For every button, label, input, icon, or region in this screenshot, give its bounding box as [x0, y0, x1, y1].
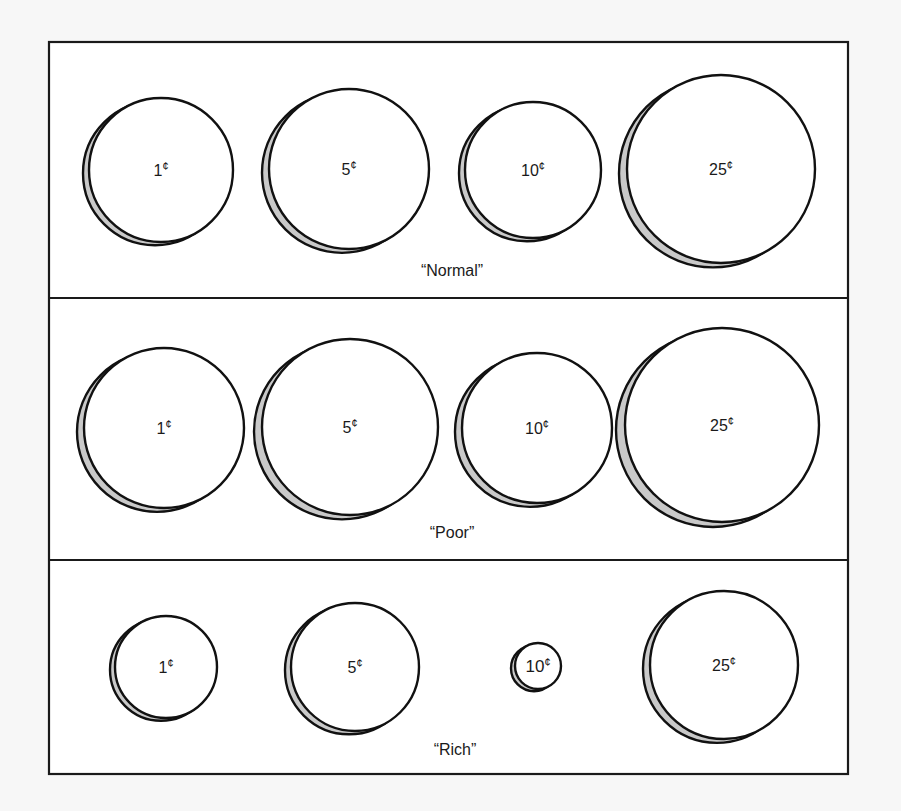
coin-10-cent: 10¢: [511, 643, 561, 691]
cent-sign-icon: ¢: [351, 417, 357, 429]
cent-sign-icon: ¢: [167, 657, 173, 669]
coin-10-cent: 10¢: [455, 353, 612, 507]
cent-sign-icon: ¢: [165, 418, 171, 430]
cent-sign-icon: ¢: [162, 160, 168, 172]
panel-label-normal: “Normal”: [421, 262, 483, 279]
cent-sign-icon: ¢: [544, 656, 550, 668]
cent-sign-icon: ¢: [356, 657, 362, 669]
cent-sign-icon: ¢: [350, 159, 356, 171]
cent-sign-icon: ¢: [539, 160, 545, 172]
cent-sign-icon: ¢: [728, 415, 734, 427]
coin-1-cent: 1¢: [77, 348, 244, 512]
diagram-canvas: 1¢ 5¢ 10¢ 25¢: [0, 0, 901, 811]
coin-5-cent: 5¢: [254, 339, 438, 519]
coin-5-cent: 5¢: [285, 603, 419, 734]
coin-1-cent: 1¢: [83, 98, 233, 245]
coin-25-cent: 25¢: [616, 328, 819, 527]
cent-sign-icon: ¢: [727, 159, 733, 171]
panel-label-rich: “Rich”: [434, 741, 477, 758]
coin-25-cent: 25¢: [619, 75, 815, 267]
cent-sign-icon: ¢: [730, 655, 736, 667]
coin-10-cent: 10¢: [459, 102, 601, 241]
panel-label-poor: “Poor”: [430, 524, 474, 541]
coin-size-diagram: 1¢ 5¢ 10¢ 25¢: [0, 0, 901, 811]
cent-sign-icon: ¢: [543, 418, 549, 430]
coin-25-cent: 25¢: [643, 591, 798, 743]
coin-5-cent: 5¢: [262, 89, 429, 253]
coin-1-cent: 1¢: [110, 616, 217, 721]
